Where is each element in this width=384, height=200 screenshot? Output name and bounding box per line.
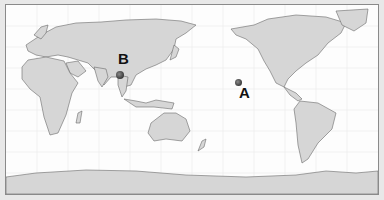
new-zealand	[198, 139, 206, 151]
indonesia	[124, 99, 174, 109]
australia	[148, 113, 190, 141]
north-america	[231, 15, 346, 87]
marker-a-label: A	[239, 85, 250, 100]
map-frame: B A	[5, 4, 379, 195]
india	[94, 67, 108, 87]
south-america	[294, 101, 336, 163]
marker-b-dot[interactable]	[116, 71, 124, 79]
marker-b-label: B	[118, 51, 129, 66]
madagascar	[76, 111, 82, 123]
world-map	[6, 5, 378, 194]
